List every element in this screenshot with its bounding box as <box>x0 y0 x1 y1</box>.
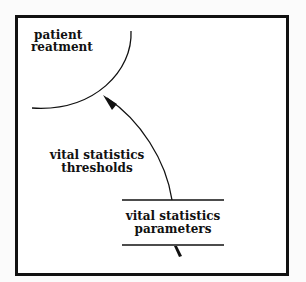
flow-label-line1: vital statistics <box>47 149 147 161</box>
flow-label-line2: thresholds <box>47 162 147 174</box>
process-label: patient reatment <box>31 29 93 53</box>
flow-label: vital statistics thresholds <box>47 149 147 174</box>
data-store-label-line2: parameters <box>122 223 224 235</box>
arrowhead-icon <box>103 95 117 110</box>
process-label-line2: reatment <box>31 41 93 53</box>
data-store-label-line1: vital statistics <box>122 210 224 222</box>
outgoing-flow-stub <box>174 246 182 257</box>
data-store-label: vital statistics parameters <box>122 210 224 235</box>
